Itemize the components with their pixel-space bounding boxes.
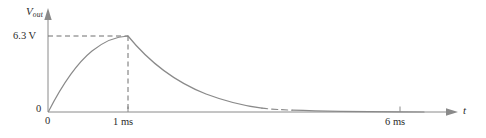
x-tick-label-1ms: 1 ms (113, 117, 133, 128)
y-axis-arrowhead (44, 8, 51, 20)
y-axis-label-symbol: V (26, 5, 33, 17)
x-axis-label: t (463, 105, 466, 116)
voltage-vs-time-figure: Vout 6.3 V 0 0 1 ms 6 ms t (0, 0, 486, 138)
discharge-curve-dashed-break (262, 108, 292, 110)
x-tick-label-6ms: 6 ms (385, 117, 405, 128)
plot-canvas (0, 0, 486, 138)
x-tick-label-zero: 0 (45, 116, 50, 127)
y-tick-label-peak: 6.3 V (13, 31, 36, 42)
y-axis-label: Vout (26, 6, 43, 17)
charge-curve (49, 36, 129, 112)
y-tick-label-zero: 0 (36, 104, 41, 115)
discharge-curve-solid-left (128, 36, 262, 108)
y-axis-label-subscript: out (33, 10, 43, 19)
x-axis-arrowhead (446, 108, 458, 115)
